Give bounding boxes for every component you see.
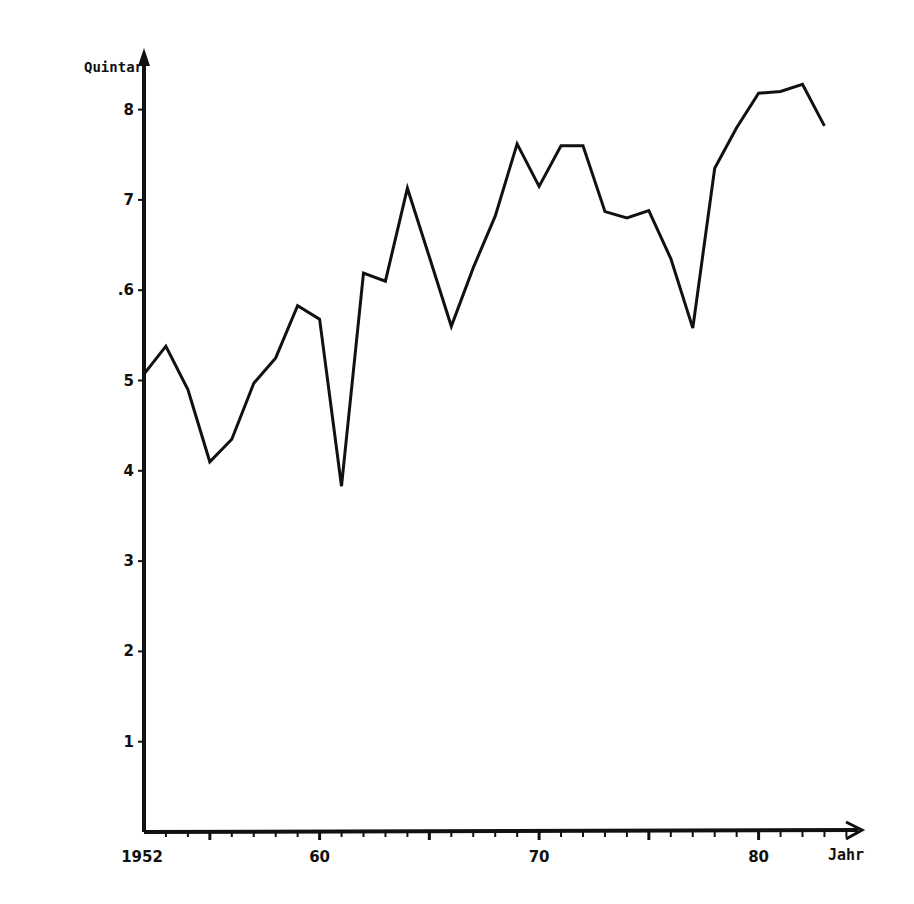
x-axis — [144, 830, 858, 832]
y-tick-label: 5 — [124, 372, 134, 390]
x-tick-label: 80 — [748, 848, 769, 866]
y-tick-label: 4 — [124, 462, 134, 480]
y-tick-label: .6 — [118, 281, 134, 299]
line-chart: 12345.6781952607080 Quintar Jahr — [0, 0, 914, 904]
y-tick-label: 2 — [124, 642, 134, 660]
data-line — [144, 84, 824, 486]
y-tick-label: 7 — [124, 191, 134, 209]
x-tick-label: 60 — [309, 848, 330, 866]
ticks: 12345.6781952607080 — [118, 101, 847, 866]
y-tick-label: 3 — [124, 552, 134, 570]
y-axis-label: Quintar — [84, 59, 143, 75]
y-tick-label: 1 — [124, 733, 134, 751]
x-axis-label: Jahr — [828, 846, 864, 864]
y-tick-label: 8 — [124, 101, 134, 119]
x-tick-label: 70 — [529, 848, 550, 866]
axes — [138, 48, 862, 839]
x-tick-label: 1952 — [121, 848, 163, 866]
